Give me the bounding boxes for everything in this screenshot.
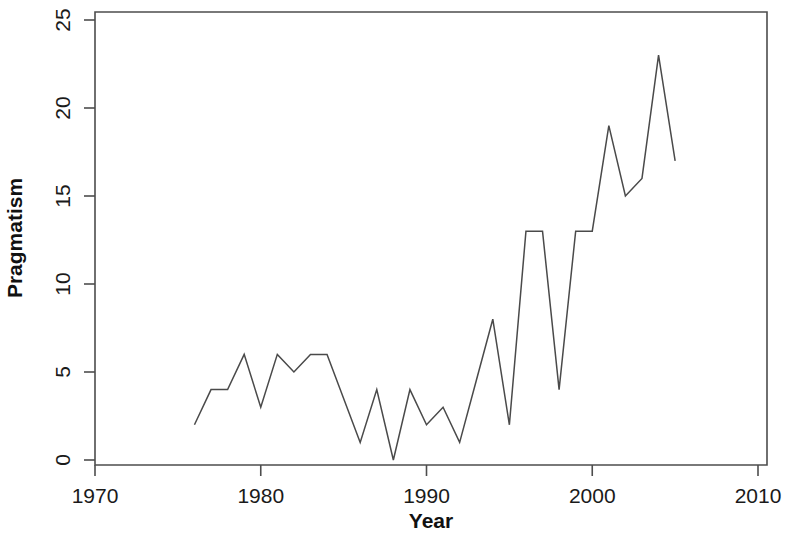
x-tick-label: 1970 <box>72 484 119 507</box>
y-tick-label: 15 <box>51 184 74 207</box>
x-axis-ticks <box>95 465 758 476</box>
x-axis-tick-labels: 19701980199020002010 <box>72 484 782 507</box>
data-series-line <box>194 55 675 460</box>
y-tick-label: 10 <box>51 272 74 295</box>
x-axis-title: Year <box>409 509 453 532</box>
y-axis-tick-labels: 0510152025 <box>51 8 74 466</box>
y-tick-label: 25 <box>51 8 74 31</box>
x-tick-label: 2010 <box>735 484 782 507</box>
plot-frame <box>95 12 767 465</box>
x-tick-label: 1980 <box>237 484 284 507</box>
y-tick-label: 20 <box>51 96 74 119</box>
y-tick-label: 5 <box>51 366 74 378</box>
x-tick-label: 1990 <box>403 484 450 507</box>
y-axis-ticks <box>84 20 95 460</box>
pragmatism-line-chart: 19701980199020002010 0510152025 Year Pra… <box>0 0 786 535</box>
y-tick-label: 0 <box>51 454 74 466</box>
chart-figure: 19701980199020002010 0510152025 Year Pra… <box>0 0 786 535</box>
y-axis-title: Pragmatism <box>3 178 26 298</box>
x-tick-label: 2000 <box>569 484 616 507</box>
